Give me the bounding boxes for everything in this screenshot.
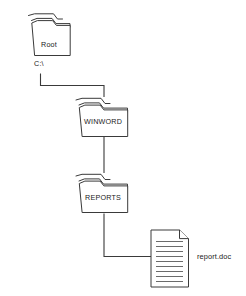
path-label-root: C:\ [34,60,44,67]
connector-reports-to-document [104,214,151,257]
folder-label-reports: REPORTS [85,194,121,201]
connector-root-to-winword [41,74,105,97]
file-label-reportdoc: report.doc [197,253,231,260]
directory-tree-diagram: Root C:\ WINWORD REPORTS report.doc [0,0,246,296]
folder-icon-root[interactable] [29,14,71,56]
folder-label-winword: WINWORD [84,118,122,125]
folder-body-root [32,21,70,56]
folder-label-root: Root [41,41,57,48]
document-icon-reportdoc[interactable] [151,230,189,287]
